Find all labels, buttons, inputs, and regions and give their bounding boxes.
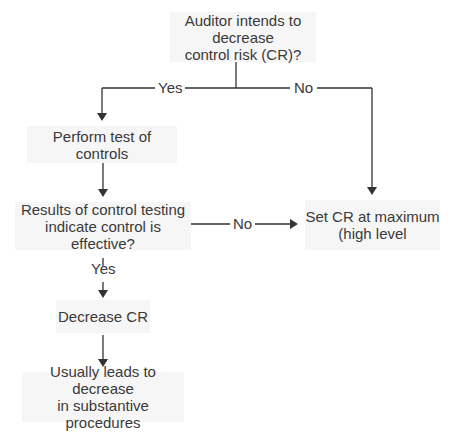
edge-label-start-no: No [291,80,316,96]
node-results-line1: Results of control testing [21,201,185,218]
node-max-line2: (high level [338,225,406,242]
node-perform-test: Perform test of controls [27,126,177,163]
node-leads-line2: in substantive procedures [22,397,184,431]
node-decrease-line1: Decrease CR [58,308,148,325]
node-start-line2: control risk (CR)? [185,46,302,63]
node-perform-line1: Perform test of controls [27,128,177,162]
node-results: Results of control testing indicate cont… [15,202,191,250]
edge-label-results-no: No [230,216,255,232]
node-results-line2: indicate control is effective? [15,218,191,252]
node-leads-to-decrease: Usually leads to decrease in substantive… [22,372,184,422]
node-start: Auditor intends to decrease control risk… [170,12,316,62]
node-set-cr-max: Set CR at maximum (high level [305,200,440,250]
edge-label-results-yes: Yes [88,261,118,277]
node-decrease-cr: Decrease CR [56,300,150,333]
node-max-line1: Set CR at maximum [305,208,439,225]
edge-label-start-yes: Yes [155,80,185,96]
node-start-line1: Auditor intends to decrease [170,12,316,46]
node-leads-line1: Usually leads to decrease [22,363,184,397]
